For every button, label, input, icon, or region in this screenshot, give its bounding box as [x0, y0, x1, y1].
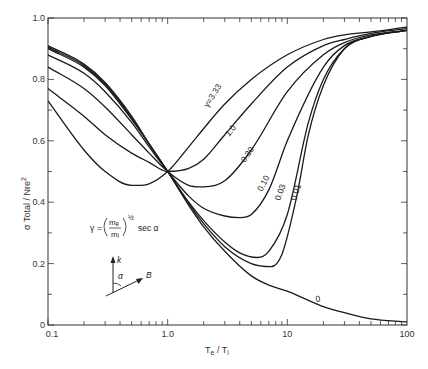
x-sub-i: i	[227, 349, 229, 356]
b-arrowhead-icon	[136, 278, 143, 284]
alpha-label: α	[118, 271, 124, 281]
curve-label: 1.0	[223, 123, 238, 139]
formula-eq: =	[97, 223, 102, 233]
formula-sec: sec α	[138, 223, 159, 233]
x-axis-title: Te / Ti	[205, 345, 229, 356]
right-paren	[123, 218, 126, 236]
axis-tick-labels: 0.11.01010000.20.40.60.81.0	[32, 13, 414, 339]
formula-numerator: mₑ	[109, 218, 119, 227]
gamma-formula: γ = mₑ mᵢ ½ sec α	[90, 214, 159, 239]
x-slash: / T	[214, 345, 227, 355]
vector-diagram: k B α	[106, 255, 152, 296]
series-curves	[48, 27, 407, 322]
axis-ticks	[48, 18, 407, 325]
formula-denominator: mᵢ	[111, 230, 119, 239]
curve-0	[48, 46, 407, 322]
y-sup: 2	[20, 177, 27, 181]
chart: 0.11.01010000.20.40.60.81.0 γ=3.331.00.3…	[0, 0, 428, 369]
left-paren	[104, 218, 107, 236]
y-tick-label: 0.8	[32, 74, 45, 84]
formula-gamma: γ	[90, 223, 95, 233]
y-axis-title: σ Total / Nre2	[20, 177, 32, 230]
angle-arc	[113, 283, 121, 286]
y-axis-title-text: σ Total / Nre	[22, 181, 32, 230]
curve-3.33	[48, 27, 407, 185]
x-tick-label: 1.0	[161, 329, 174, 339]
curve-0.10	[48, 30, 407, 217]
b-vector	[106, 279, 141, 296]
k-label: k	[117, 255, 122, 265]
curve-label: γ=3.33	[201, 82, 223, 109]
y-tick-label: 0.2	[32, 259, 45, 269]
x-tick-label: 0.1	[46, 329, 59, 339]
x-tick-label: 100	[399, 329, 414, 339]
curve-label: 0.03	[272, 182, 287, 201]
plot-frame	[48, 18, 407, 325]
y-tick-label: 0	[40, 320, 45, 330]
y-tick-label: 1.0	[32, 13, 45, 23]
curve-label: 0	[315, 293, 322, 304]
curve-1.0	[48, 29, 407, 172]
curve-0.30	[48, 30, 407, 187]
y-tick-label: 0.6	[32, 136, 45, 146]
x-tick-label: 10	[282, 329, 292, 339]
series-labels: γ=3.331.00.300.100.030.010	[201, 82, 321, 304]
formula-exponent: ½	[128, 214, 134, 221]
y-tick-label: 0.4	[32, 197, 45, 207]
k-arrowhead-icon	[111, 256, 116, 263]
curve-label: 0.01	[288, 183, 303, 202]
b-label: B	[146, 270, 152, 280]
